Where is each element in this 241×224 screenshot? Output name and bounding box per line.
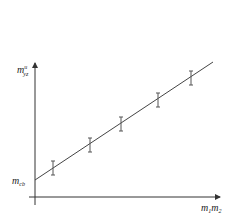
x-axis-label: m1m2 [201, 202, 221, 214]
data-point-1 [51, 161, 55, 175]
fit-line [35, 62, 213, 180]
y-axis-label: muyz [17, 64, 29, 77]
data-point-4 [156, 93, 160, 107]
chart-canvas: muyz mcb m1m2 [0, 0, 241, 224]
intercept-label: mcb [12, 175, 25, 187]
error-bars [51, 71, 193, 175]
